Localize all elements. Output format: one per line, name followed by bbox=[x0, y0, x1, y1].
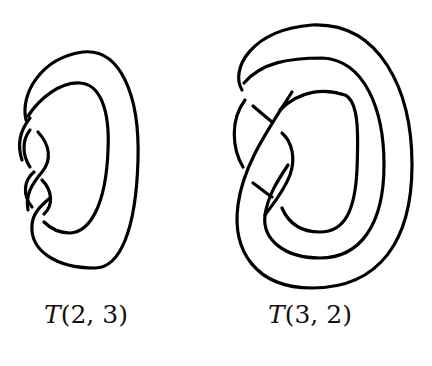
knot-figure: T(2, 3) T(3, 2) bbox=[0, 0, 432, 366]
knot-right-diagram bbox=[234, 25, 412, 288]
knot-left-diagram bbox=[20, 52, 139, 268]
knot-left-label-args: (2, 3) bbox=[61, 300, 128, 329]
knot-left-label: T(2, 3) bbox=[44, 300, 128, 329]
knot-right-label: T(3, 2) bbox=[268, 300, 352, 329]
knot-left-label-prefix: T bbox=[44, 300, 61, 329]
knot-right-label-args: (3, 2) bbox=[285, 300, 352, 329]
knot-right-label-prefix: T bbox=[268, 300, 285, 329]
